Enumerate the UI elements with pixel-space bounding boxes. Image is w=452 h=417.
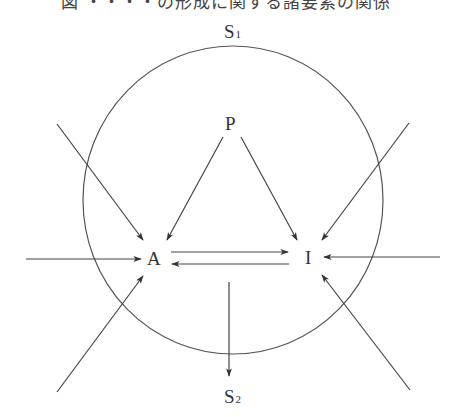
- label-s1: S1: [224, 21, 241, 42]
- arrow-lower-right-to-i: [322, 275, 410, 390]
- label-p: P: [225, 113, 236, 134]
- diagram-canvas: S1 P A I S2: [0, 0, 452, 417]
- label-i: I: [305, 247, 311, 268]
- label-a: A: [147, 248, 161, 269]
- arrow-lower-left-to-a: [57, 276, 143, 392]
- arrow-p-to-i: [241, 137, 297, 240]
- label-s2: S2: [224, 386, 241, 407]
- arrow-p-to-a: [167, 137, 223, 240]
- arrow-upper-right-to-i: [322, 123, 409, 240]
- system-boundary-circle: [83, 46, 383, 354]
- arrow-upper-left-to-a: [57, 124, 143, 240]
